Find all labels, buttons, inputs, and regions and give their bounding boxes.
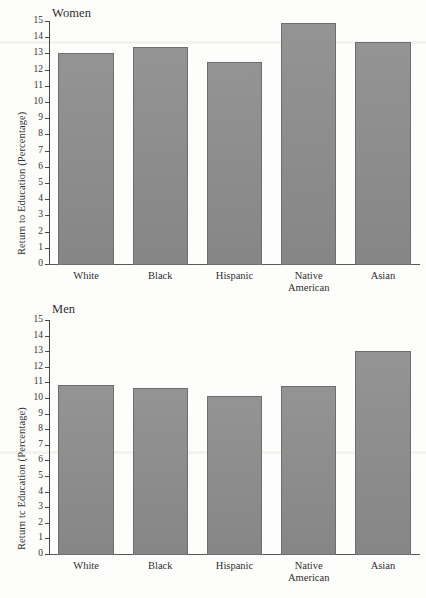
tick-label: 3 <box>38 211 43 221</box>
x-axis-category-label: Hispanic <box>197 270 271 282</box>
tick-mark <box>45 86 49 87</box>
tick-label: 13 <box>34 346 44 356</box>
tick-mark <box>45 445 49 446</box>
category-label-line: Black <box>123 270 197 282</box>
tick-mark <box>45 460 49 461</box>
tick-mark <box>45 118 49 119</box>
bar <box>58 385 113 555</box>
tick-mark <box>45 429 49 430</box>
tick-mark <box>45 102 49 103</box>
tick-label: 8 <box>38 424 43 434</box>
tick-label: 7 <box>38 146 43 156</box>
chart-title-women: Women <box>52 6 91 21</box>
x-axis-category-label: Black <box>123 560 197 572</box>
tick-mark <box>45 70 49 71</box>
tick-mark <box>45 21 49 22</box>
tick-label: 14 <box>34 32 44 42</box>
tick-mark <box>45 414 49 415</box>
tick-mark <box>45 151 49 152</box>
bar <box>355 42 410 265</box>
category-label-line: Native <box>272 270 346 282</box>
bar <box>355 351 410 555</box>
category-label-line: Asian <box>346 560 420 572</box>
plot-area-men: 0123456789101112131415WhiteBlackHispanic… <box>49 320 420 554</box>
tick-label: 0 <box>38 259 43 269</box>
category-label-line: White <box>49 270 123 282</box>
category-label-line: White <box>49 560 123 572</box>
tick-label: 6 <box>38 456 43 466</box>
bar <box>58 53 113 265</box>
tick-label: 6 <box>38 162 43 172</box>
figure-page: Women Return to Education (Percentage) 0… <box>0 0 426 598</box>
tick-label: 1 <box>38 243 43 253</box>
tick-label: 15 <box>34 16 44 26</box>
tick-label: 12 <box>34 362 44 372</box>
x-axis-category-label: Asian <box>346 560 420 572</box>
tick-label: 11 <box>34 81 43 91</box>
tick-label: 4 <box>38 194 43 204</box>
tick-mark <box>45 264 49 265</box>
tick-label: 10 <box>34 393 44 403</box>
tick-label: 15 <box>34 315 44 325</box>
tick-mark <box>45 215 49 216</box>
x-axis-category-label: Hispanic <box>197 560 271 572</box>
category-label-line: American <box>272 572 346 584</box>
tick-mark <box>45 492 49 493</box>
x-axis-category-label: Black <box>123 270 197 282</box>
tick-mark <box>45 523 49 524</box>
tick-label: 8 <box>38 130 43 140</box>
bar <box>133 47 188 265</box>
tick-label: 10 <box>34 97 44 107</box>
tick-mark <box>45 538 49 539</box>
tick-label: 0 <box>38 549 43 559</box>
y-axis-line <box>49 320 50 554</box>
tick-mark <box>45 183 49 184</box>
tick-label: 3 <box>38 502 43 512</box>
x-axis-category-label: Asian <box>346 270 420 282</box>
tick-mark <box>45 248 49 249</box>
tick-mark <box>45 199 49 200</box>
chart-title-men: Men <box>52 302 75 317</box>
x-axis-category-label: NativeAmerican <box>272 270 346 294</box>
tick-mark <box>45 336 49 337</box>
tick-label: 4 <box>38 487 43 497</box>
tick-label: 9 <box>38 113 43 123</box>
tick-mark <box>45 476 49 477</box>
chart-panel-women: Women Return to Education (Percentage) 0… <box>0 0 426 300</box>
category-label-line: Black <box>123 560 197 572</box>
tick-mark <box>45 134 49 135</box>
tick-label: 12 <box>34 65 44 75</box>
tick-label: 13 <box>34 49 44 59</box>
tick-mark <box>45 398 49 399</box>
x-axis-category-label: White <box>49 270 123 282</box>
tick-mark <box>45 320 49 321</box>
bar <box>281 23 336 265</box>
tick-label: 5 <box>38 471 43 481</box>
tick-label: 7 <box>38 440 43 450</box>
category-label-line: Native <box>272 560 346 572</box>
tick-label: 5 <box>38 178 43 188</box>
bar <box>133 388 188 555</box>
category-label-line: American <box>272 282 346 294</box>
tick-label: 9 <box>38 409 43 419</box>
tick-label: 1 <box>38 534 43 544</box>
y-axis-label-men: Return tc Education (Percentage) <box>16 407 27 550</box>
tick-mark <box>45 351 49 352</box>
tick-label: 14 <box>34 331 44 341</box>
tick-mark <box>45 232 49 233</box>
tick-mark <box>45 507 49 508</box>
tick-label: 11 <box>34 378 43 388</box>
tick-mark <box>45 554 49 555</box>
tick-label: 2 <box>38 227 43 237</box>
tick-mark <box>45 53 49 54</box>
x-axis-category-label: White <box>49 560 123 572</box>
tick-mark <box>45 367 49 368</box>
y-axis-label-women: Return to Education (Percentage) <box>16 112 27 255</box>
tick-mark <box>45 37 49 38</box>
x-axis-category-label: NativeAmerican <box>272 560 346 584</box>
category-label-line: Hispanic <box>197 560 271 572</box>
tick-mark <box>45 382 49 383</box>
bar <box>207 62 262 265</box>
category-label-line: Asian <box>346 270 420 282</box>
y-axis-line <box>49 21 50 264</box>
